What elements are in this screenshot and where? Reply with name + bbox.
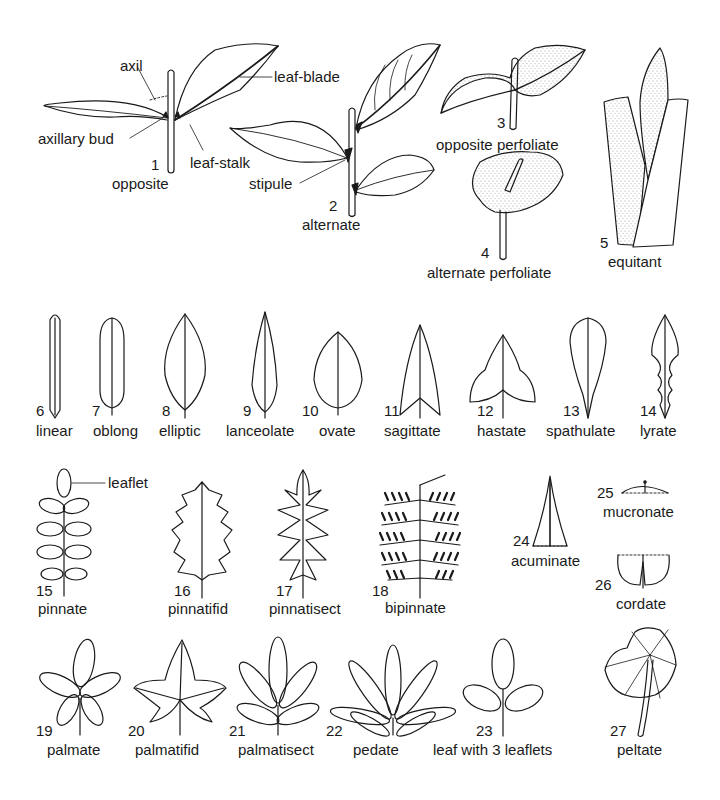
label-acuminate: acuminate xyxy=(511,553,580,569)
leaf-20-palmatifid-drawing xyxy=(134,640,226,735)
label-bipinnate: bipinnate xyxy=(385,600,446,616)
label-alternate: alternate xyxy=(302,217,360,233)
number-25: 25 xyxy=(597,485,614,501)
leaf-26-cordate-drawing xyxy=(618,555,670,588)
label-alternate-perfoliate: alternate perfoliate xyxy=(427,265,551,281)
label-lyrate: lyrate xyxy=(640,423,677,439)
number-26: 26 xyxy=(595,577,612,593)
label-sagittate: sagittate xyxy=(384,423,441,439)
label-leaflet: leaflet xyxy=(108,475,148,491)
leaf-23-three-leaflets-drawing xyxy=(459,639,547,736)
label-pinnatisect: pinnatisect xyxy=(269,601,341,617)
number-22: 22 xyxy=(326,723,343,739)
number-7: 7 xyxy=(92,403,100,419)
label-axillary-bud: axillary bud xyxy=(38,131,114,147)
leaf-25-mucronate-drawing xyxy=(622,481,668,493)
label-linear: linear xyxy=(36,423,73,439)
leaf-21-palmatisect-drawing xyxy=(234,637,323,735)
number-20: 20 xyxy=(128,723,145,739)
label-hastate: hastate xyxy=(477,423,526,439)
label-elliptic: elliptic xyxy=(159,423,201,439)
number-3: 3 xyxy=(497,115,505,131)
label-peltate: peltate xyxy=(617,742,662,758)
label-palmatifid: palmatifid xyxy=(135,742,199,758)
leaf-3-opposite-perfoliate-drawing xyxy=(441,45,585,129)
label-pinnate: pinnate xyxy=(38,601,87,617)
number-14: 14 xyxy=(640,403,657,419)
label-pinnatifid: pinnatifid xyxy=(168,601,228,617)
leaf-shapes-row xyxy=(50,312,678,418)
number-27: 27 xyxy=(610,723,627,739)
label-leaf-blade: leaf-blade xyxy=(274,69,340,85)
label-ovate: ovate xyxy=(319,423,356,439)
number-6: 6 xyxy=(36,403,44,419)
leaf-19-palmate-drawing xyxy=(36,638,123,735)
number-16: 16 xyxy=(174,583,191,599)
label-leaf-with-3-leaflets: leaf with 3 leaflets xyxy=(433,742,552,758)
leaf-17-pinnatisect-drawing xyxy=(278,470,328,598)
leaf-27-peltate-drawing xyxy=(605,628,676,737)
leaf-18-bipinnate-drawing xyxy=(380,475,460,598)
leaf-5-equitant-drawing xyxy=(604,48,688,247)
label-cordate: cordate xyxy=(616,596,666,612)
number-8: 8 xyxy=(162,403,170,419)
label-equitant: equitant xyxy=(608,254,661,270)
number-1: 1 xyxy=(151,157,159,173)
label-axil: axil xyxy=(120,58,143,74)
label-opposite: opposite xyxy=(112,176,169,192)
number-13: 13 xyxy=(563,403,580,419)
number-9: 9 xyxy=(243,403,251,419)
leaf-16-pinnatifid-drawing xyxy=(172,482,232,598)
number-4: 4 xyxy=(481,245,489,261)
number-19: 19 xyxy=(36,723,53,739)
leaf-24-acuminate-drawing xyxy=(533,476,567,546)
label-leaf-stalk: leaf-stalk xyxy=(190,155,250,171)
label-spathulate: spathulate xyxy=(546,423,615,439)
number-2: 2 xyxy=(329,198,337,214)
label-palmate: palmate xyxy=(47,742,100,758)
label-stipule: stipule xyxy=(249,176,292,192)
number-21: 21 xyxy=(229,723,246,739)
number-23: 23 xyxy=(476,723,493,739)
number-5: 5 xyxy=(600,235,608,251)
number-15: 15 xyxy=(36,583,53,599)
number-17: 17 xyxy=(276,583,293,599)
label-pedate: pedate xyxy=(353,742,399,758)
label-oblong: oblong xyxy=(93,423,138,439)
label-opposite-perfoliate: opposite perfoliate xyxy=(436,137,559,153)
number-18: 18 xyxy=(372,583,389,599)
number-10: 10 xyxy=(302,403,319,419)
number-24: 24 xyxy=(513,533,530,549)
leaf-diagram-artwork xyxy=(0,0,720,800)
leaf-22-pedate-drawing xyxy=(329,645,457,740)
leaf-15-pinnate-drawing xyxy=(37,469,105,596)
number-12: 12 xyxy=(477,403,494,419)
label-palmatisect: palmatisect xyxy=(238,742,314,758)
label-mucronate: mucronate xyxy=(603,504,674,520)
label-lanceolate: lanceolate xyxy=(226,423,294,439)
number-11: 11 xyxy=(384,403,400,419)
